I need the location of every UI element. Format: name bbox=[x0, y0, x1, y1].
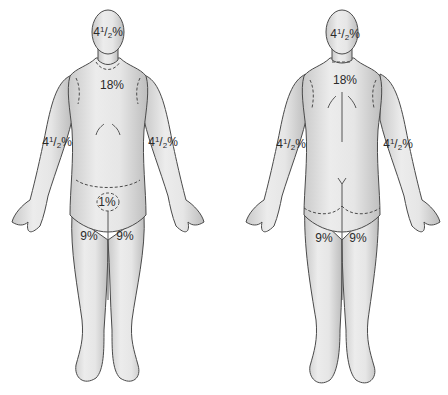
body-diagram bbox=[0, 0, 448, 395]
front-left-arm bbox=[12, 75, 72, 232]
front-perineum-label: 1% bbox=[98, 196, 115, 208]
back-right-arm bbox=[380, 74, 440, 232]
front-right-leg-label: 9% bbox=[116, 230, 133, 242]
back-left-leg-label: 9% bbox=[315, 232, 332, 244]
back-trunk-label: 18% bbox=[333, 74, 357, 86]
back-left-arm-label: 41/2% bbox=[276, 138, 306, 152]
front-left-leg-label: 9% bbox=[80, 230, 97, 242]
back-right-leg-label: 9% bbox=[349, 232, 366, 244]
front-trunk-label: 18% bbox=[100, 79, 124, 91]
back-head-label: 41/2% bbox=[330, 28, 360, 42]
back-figure bbox=[246, 10, 440, 383]
back-right-arm-label: 41/2% bbox=[383, 138, 413, 152]
front-left-arm-label: 41/2% bbox=[42, 136, 72, 150]
front-right-arm bbox=[144, 75, 204, 232]
front-head-label: 41/2% bbox=[93, 26, 123, 40]
back-left-arm bbox=[246, 74, 306, 232]
front-right-arm-label: 41/2% bbox=[148, 136, 178, 150]
